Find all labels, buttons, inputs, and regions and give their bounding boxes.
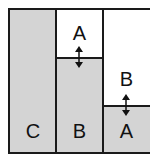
- left-column-block: C: [10, 10, 56, 152]
- label-a-middle: A: [56, 23, 103, 43]
- divider-left-middle: [55, 10, 57, 152]
- right-top-block: B: [103, 10, 150, 106]
- label-c: C: [10, 121, 56, 141]
- label-b-middle: B: [56, 121, 103, 141]
- diagram-frame: C A B B A: [8, 8, 150, 154]
- label-a-right: A: [103, 121, 150, 141]
- double-arrow-icon-middle: [74, 46, 84, 68]
- double-arrow-icon-right: [121, 94, 131, 116]
- middle-bottom-block: B: [56, 58, 103, 152]
- label-b-right: B: [103, 69, 150, 89]
- divider-middle-right: [102, 10, 104, 152]
